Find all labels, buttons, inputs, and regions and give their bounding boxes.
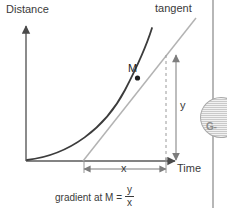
fraction-denominator: x xyxy=(125,197,134,208)
point-m-marker xyxy=(135,75,140,80)
tangent-line xyxy=(83,18,196,161)
y-axis-label: Distance xyxy=(6,4,49,15)
tangent-label: tangent xyxy=(155,3,192,14)
gradient-fraction: y x xyxy=(125,185,134,208)
watermark-text: G- xyxy=(206,121,217,132)
figure-screen: Distance tangent Time M y x gradient at … xyxy=(0,0,227,208)
gradient-formula-text: gradient at M = xyxy=(55,192,122,203)
fraction-numerator: y xyxy=(125,185,134,196)
run-label: x xyxy=(121,163,127,174)
rise-label: y xyxy=(180,100,186,111)
point-m-label: M xyxy=(128,63,137,74)
gradient-formula: gradient at M = y x xyxy=(55,186,134,208)
x-axis-label: Time xyxy=(177,163,201,174)
distance-time-graph xyxy=(0,0,227,208)
distance-curve xyxy=(27,28,152,160)
watermark-badge: G- xyxy=(200,97,227,140)
